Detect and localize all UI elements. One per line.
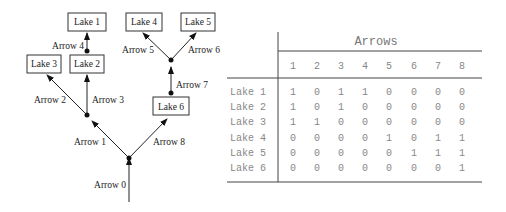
table-title: Arrows [354, 35, 397, 49]
table-cell: 0 [338, 148, 344, 159]
table-cell: 0 [290, 163, 296, 174]
table-cell: 1 [411, 148, 417, 159]
table-cell: 1 [459, 133, 465, 144]
table-cell: 0 [386, 87, 392, 98]
table-cell: 0 [459, 117, 465, 128]
table-cell: 0 [411, 133, 417, 144]
arrow-4-label: Arrow 4 [52, 41, 84, 51]
arrow-5-label: Arrow 5 [122, 45, 154, 55]
table-cell: 0 [314, 87, 320, 98]
table-cell: 0 [314, 163, 320, 174]
column-header: 4 [362, 61, 368, 72]
river-network-figure: Lake 1 Lake 2 Lake 3 Lake 4 Lake 5 Lake … [0, 0, 506, 212]
lake-6-label: Lake 6 [158, 102, 184, 112]
junction-dot [85, 49, 90, 54]
table-cell: 1 [435, 133, 441, 144]
table-cell: 0 [386, 102, 392, 113]
junction-dot [169, 91, 174, 96]
table-cell: 0 [435, 87, 441, 98]
table-cell: 0 [290, 133, 296, 144]
table-cell: 0 [338, 117, 344, 128]
table-cell: 0 [411, 102, 417, 113]
table-cell: 0 [362, 133, 368, 144]
table-cell: 0 [386, 148, 392, 159]
row-label: Lake 2 [230, 102, 266, 113]
table-cell: 0 [314, 102, 320, 113]
table-cell: 1 [338, 102, 344, 113]
lake-1-label: Lake 1 [74, 17, 100, 27]
junction-dot [127, 156, 132, 161]
table-cell: 1 [362, 87, 368, 98]
table-cell: 1 [338, 87, 344, 98]
junction-dot [85, 113, 90, 118]
arrow-7-label: Arrow 7 [176, 80, 208, 90]
arrow-3-label: Arrow 3 [92, 95, 124, 105]
table-cell: 0 [411, 163, 417, 174]
table-cell: 0 [459, 87, 465, 98]
table-cell: 0 [386, 117, 392, 128]
edges [47, 33, 196, 202]
table-cell: 1 [314, 117, 320, 128]
arrow-1-label: Arrow 1 [74, 137, 106, 147]
table-cell: 1 [290, 117, 296, 128]
row-label: Lake 5 [230, 148, 266, 159]
table-cell: 0 [314, 133, 320, 144]
column-header: 6 [411, 61, 417, 72]
table-cell: 1 [290, 102, 296, 113]
table-cell: 0 [362, 148, 368, 159]
table-cell: 0 [338, 163, 344, 174]
table-cell: 0 [435, 117, 441, 128]
table-cell: 0 [290, 148, 296, 159]
column-header: 1 [290, 61, 296, 72]
arrow-6-label: Arrow 6 [188, 45, 220, 55]
table-cell: 1 [386, 133, 392, 144]
column-header: 5 [386, 61, 392, 72]
table-cell: 1 [459, 148, 465, 159]
table-cell: 0 [435, 102, 441, 113]
table-cell: 1 [459, 163, 465, 174]
table-cell: 0 [411, 117, 417, 128]
column-header: 2 [314, 61, 320, 72]
arrow-2-label: Arrow 2 [34, 95, 66, 105]
table-cell: 0 [314, 148, 320, 159]
column-header: 3 [338, 61, 344, 72]
table-cell: 0 [459, 102, 465, 113]
table-cell: 0 [362, 163, 368, 174]
table-cell: 1 [435, 148, 441, 159]
row-label: Lake 1 [230, 87, 266, 98]
arrow-0-label: Arrow 0 [94, 180, 126, 190]
column-header: 7 [435, 61, 441, 72]
table-cell: 1 [290, 87, 296, 98]
lake-4-label: Lake 4 [131, 17, 157, 27]
row-label: Lake 4 [230, 133, 266, 144]
junction-dot [169, 58, 174, 63]
table-cell: 0 [362, 102, 368, 113]
lake-3-label: Lake 3 [31, 59, 57, 69]
column-header: 8 [459, 61, 465, 72]
row-label: Lake 3 [230, 117, 266, 128]
table-cell: 0 [411, 87, 417, 98]
table-cell: 0 [386, 163, 392, 174]
table-cell: 0 [362, 117, 368, 128]
table-cell: 0 [338, 133, 344, 144]
lake-2-label: Lake 2 [74, 59, 100, 69]
row-label: Lake 6 [230, 163, 266, 174]
arrow-8-label: Arrow 8 [153, 137, 185, 147]
incidence-table: Arrows 12345678Lake 110110000Lake 210100… [227, 32, 482, 182]
lake-5-label: Lake 5 [185, 17, 211, 27]
table-cell: 0 [435, 163, 441, 174]
